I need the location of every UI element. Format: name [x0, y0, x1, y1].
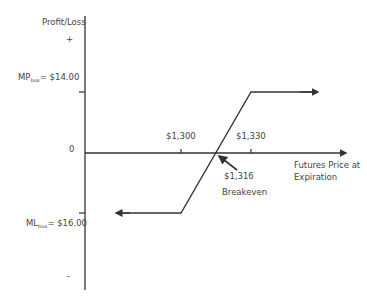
max-loss-subscript: bux	[38, 223, 47, 229]
x-axis-label-line2: Expiration	[294, 173, 337, 183]
max-profit-label: MPbux= $14.00	[18, 73, 79, 84]
max-profit-prefix: MP	[18, 72, 30, 82]
max-loss-label: MLbux= $16.00	[26, 219, 87, 230]
max-profit-subscript: bux	[30, 77, 39, 83]
max-profit-value: = $14.00	[40, 72, 80, 82]
plus-marker: +	[66, 35, 73, 45]
breakeven-label: Breakeven	[222, 188, 267, 198]
tick-label-1300: $1,300	[166, 132, 196, 142]
payoff-diagram	[0, 0, 367, 304]
max-loss-value: = $16.00	[47, 218, 87, 228]
minus-marker: -	[67, 272, 70, 282]
zero-label: 0	[69, 145, 74, 155]
breakeven-value: $1,316	[224, 172, 254, 182]
max-loss-prefix: ML	[26, 218, 38, 228]
x-axis-label-line1: Futures Price at	[294, 161, 360, 171]
y-axis-label: Profit/Loss	[42, 18, 86, 28]
breakeven-pointer	[219, 156, 237, 170]
tick-label-1330: $1,330	[236, 132, 266, 142]
